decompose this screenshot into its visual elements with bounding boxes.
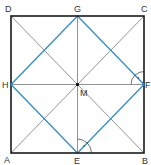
geometry-diagram: D G C H F M A E B bbox=[0, 0, 151, 165]
label-a: A bbox=[4, 155, 10, 165]
point-h-marker bbox=[10, 83, 12, 85]
label-c: C bbox=[141, 4, 148, 14]
label-e: E bbox=[74, 156, 80, 165]
label-d: D bbox=[5, 4, 12, 14]
label-f: F bbox=[145, 80, 151, 90]
label-b: B bbox=[142, 156, 148, 165]
label-g: G bbox=[74, 4, 81, 14]
label-m: M bbox=[80, 88, 88, 98]
label-h: H bbox=[2, 80, 9, 90]
center-point-m bbox=[76, 83, 79, 86]
